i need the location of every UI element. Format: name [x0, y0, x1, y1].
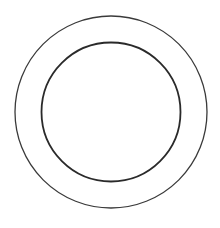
- inner-circle: [42, 43, 181, 182]
- outer-circle: [15, 16, 207, 208]
- concentric-circles-diagram: [0, 0, 220, 228]
